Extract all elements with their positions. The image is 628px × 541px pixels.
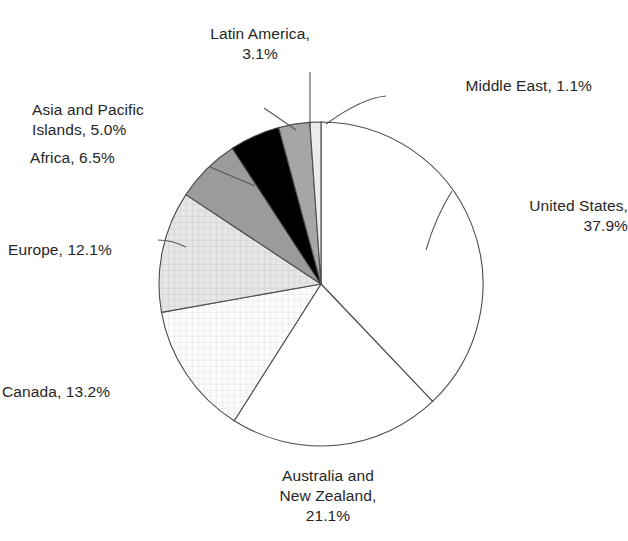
slice-label-europe: Europe, 12.1%	[8, 240, 156, 260]
leader-line-asia-pacific	[264, 108, 296, 130]
slice-label-australia-new-zealand: Australia and New Zealand, 21.1%	[248, 466, 408, 526]
leader-line-middle-east	[326, 96, 386, 124]
slice-label-middle-east: Middle East, 1.1%	[392, 76, 592, 96]
slice-label-africa: Africa, 6.5%	[30, 148, 210, 168]
slice-label-latin-america: Latin America, 3.1%	[176, 24, 344, 64]
slice-label-united-states: United States, 37.9%	[458, 196, 628, 236]
pie-slices	[159, 122, 483, 446]
slice-label-asia-pacific-islands: Asia and Pacific Islands, 5.0%	[32, 100, 210, 140]
slice-label-canada: Canada, 13.2%	[2, 382, 160, 402]
